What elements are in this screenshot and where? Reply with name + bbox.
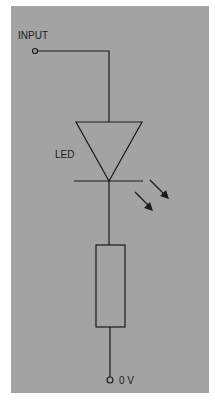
input-label: INPUT [18, 30, 48, 41]
resistor-icon [96, 245, 125, 327]
input-terminal [33, 49, 38, 54]
input-wire [38, 51, 110, 122]
light-emission-arrows-icon [144, 190, 169, 211]
led-triangle-icon [76, 122, 142, 181]
ground-label: 0 V [119, 375, 134, 386]
circuit-diagram: INPUT LED 0 V [0, 0, 215, 405]
light-arrow-1-shaft [150, 180, 165, 195]
ground-terminal [107, 377, 113, 383]
led-label: LED [55, 149, 74, 160]
